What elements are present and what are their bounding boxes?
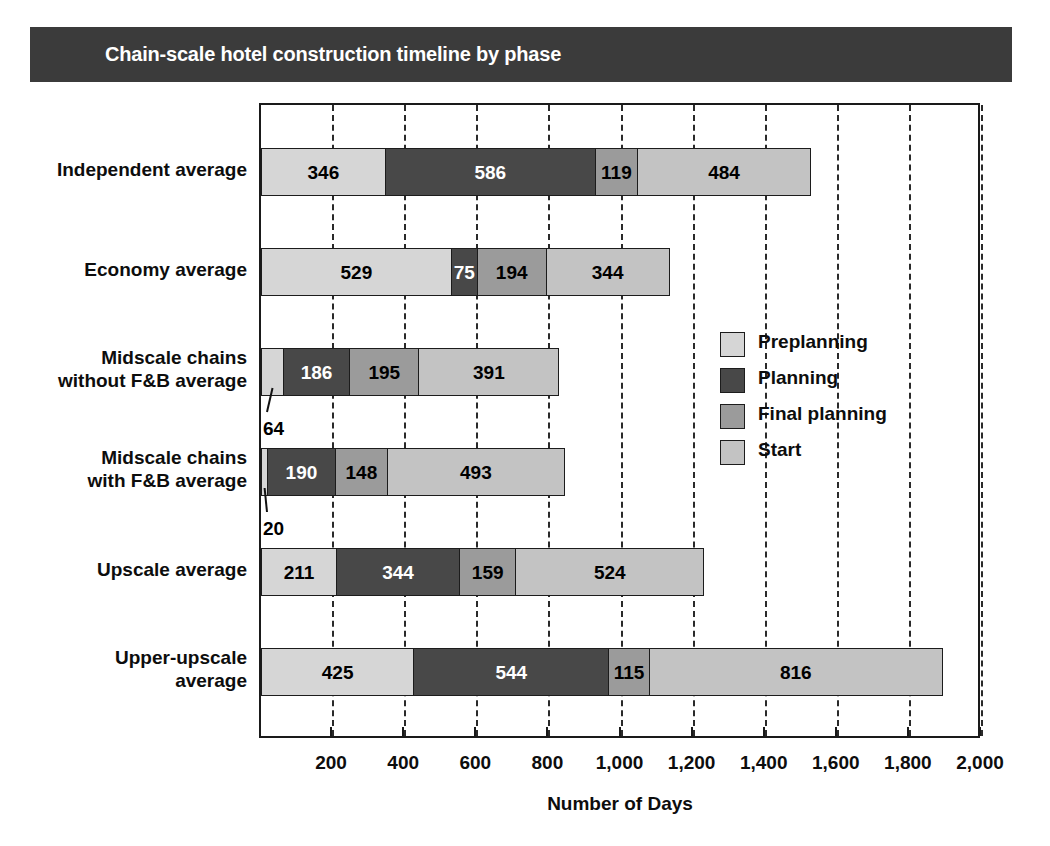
bar-value-label: 211 — [262, 563, 336, 582]
x-tick-label: 1,600 — [796, 752, 876, 774]
page-title: Chain-scale hotel construction timeline … — [105, 43, 561, 66]
bar-segment-final-planning: 115 — [608, 648, 649, 696]
category-label-line: average — [7, 669, 247, 692]
legend-swatch-icon — [720, 440, 745, 465]
bar-value-label: 344 — [547, 263, 669, 282]
category-label: Upscale average — [7, 558, 247, 581]
x-tick — [330, 727, 332, 736]
plot-area: 3465861194845297519434464186195391201901… — [259, 103, 980, 738]
bar-segment-start: 816 — [649, 648, 943, 696]
bar-segment-final-planning: 148 — [335, 448, 388, 496]
bar-segment-start: 484 — [637, 148, 811, 196]
x-tick — [546, 727, 548, 736]
bar-value-label: 75 — [452, 263, 477, 282]
bar-value-label: 529 — [262, 263, 451, 282]
bar-segment-preplanning: 425 — [261, 648, 414, 696]
bar-segment-planning: 586 — [385, 148, 596, 196]
legend-label: Planning — [758, 367, 838, 389]
category-label: Economy average — [7, 258, 247, 281]
bar-segment-preplanning: 211 — [261, 548, 337, 596]
x-tick-label: 600 — [435, 752, 515, 774]
gridline-200 — [332, 105, 334, 736]
bar-segment-start: 524 — [515, 548, 704, 596]
legend-label: Preplanning — [758, 331, 868, 353]
bar-segment-final-planning: 159 — [459, 548, 516, 596]
category-label-line: Upper-upscale — [7, 646, 247, 669]
bar-segment-preplanning: 346 — [261, 148, 386, 196]
callout-leader-line — [261, 382, 321, 418]
x-tick-label: 200 — [291, 752, 371, 774]
x-tick-label: 2,000 — [940, 752, 1020, 774]
bar-value-label: 190 — [268, 463, 334, 482]
gridline-400 — [404, 105, 406, 736]
legend-label: Final planning — [758, 403, 887, 425]
category-label: Independent average — [7, 158, 247, 181]
x-tick — [835, 727, 837, 736]
x-tick-label: 1,000 — [580, 752, 660, 774]
category-label-line: without F&B average — [7, 369, 247, 392]
x-tick — [691, 727, 693, 736]
category-label-line: with F&B average — [7, 469, 247, 492]
bar-row: 425544115816 — [261, 648, 943, 696]
category-label-line: Midscale chains — [7, 346, 247, 369]
gridline-1200 — [693, 105, 695, 736]
bar-value-label: 484 — [638, 163, 810, 182]
category-label: Upper-upscaleaverage — [7, 646, 247, 692]
legend-swatch-icon — [720, 332, 745, 357]
bar-value-label: 816 — [650, 663, 942, 682]
bar-row: 346586119484 — [261, 148, 811, 196]
callout-value-label: 20 — [263, 518, 284, 540]
x-tick — [619, 727, 621, 736]
legend-label: Start — [758, 439, 801, 461]
legend-swatch-icon — [720, 368, 745, 393]
category-label: Midscale chainswithout F&B average — [7, 346, 247, 392]
bar-value-label: 524 — [516, 563, 703, 582]
bar-value-label: 493 — [388, 463, 564, 482]
x-tick — [474, 727, 476, 736]
x-tick-label: 800 — [507, 752, 587, 774]
bar-row: 211344159524 — [261, 548, 704, 596]
callout-value-label: 64 — [263, 418, 284, 440]
bar-segment-start: 391 — [418, 348, 559, 396]
x-axis-title: Number of Days — [470, 793, 770, 815]
callout-leader-line — [261, 482, 321, 518]
x-tick — [763, 727, 765, 736]
category-label-line: Independent average — [7, 158, 247, 181]
category-label-line: Midscale chains — [7, 446, 247, 469]
bar-segment-planning: 75 — [451, 248, 478, 296]
chart-page: Chain-scale hotel construction timeline … — [0, 0, 1050, 846]
bar-segment-start: 493 — [387, 448, 565, 496]
bar-row: 52975194344 — [261, 248, 670, 296]
bar-value-label: 391 — [419, 363, 558, 382]
bar-value-label: 115 — [609, 663, 648, 682]
x-tick-label: 1,400 — [724, 752, 804, 774]
bar-value-label: 186 — [284, 363, 349, 382]
bar-value-label: 425 — [262, 663, 413, 682]
x-tick-label: 400 — [363, 752, 443, 774]
bar-value-label: 119 — [596, 163, 637, 182]
category-label: Midscale chainswith F&B average — [7, 446, 247, 492]
gridline-800 — [548, 105, 550, 736]
bar-segment-planning: 344 — [336, 548, 460, 596]
chart-title-banner: Chain-scale hotel construction timeline … — [30, 27, 1012, 82]
category-label-line: Economy average — [7, 258, 247, 281]
bar-segment-preplanning: 529 — [261, 248, 452, 296]
gridline-1800 — [909, 105, 911, 736]
x-tick — [979, 727, 981, 736]
bar-value-label: 344 — [337, 563, 459, 582]
gridline-2000 — [981, 105, 983, 736]
bar-segment-planning: 544 — [413, 648, 609, 696]
x-tick — [907, 727, 909, 736]
bar-value-label: 195 — [350, 363, 418, 382]
bar-segment-final-planning: 119 — [595, 148, 638, 196]
gridline-600 — [476, 105, 478, 736]
legend-swatch-icon — [720, 404, 745, 429]
bar-value-label: 346 — [262, 163, 385, 182]
x-tick-label: 1,800 — [868, 752, 948, 774]
category-label-line: Upscale average — [7, 558, 247, 581]
bar-segment-start: 344 — [546, 248, 670, 296]
bar-value-label: 148 — [336, 463, 387, 482]
bar-value-label: 586 — [386, 163, 595, 182]
x-tick — [402, 727, 404, 736]
bar-segment-final-planning: 195 — [349, 348, 419, 396]
